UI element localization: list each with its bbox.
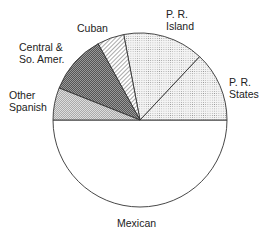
pie-chart — [0, 0, 267, 233]
label-mexican: Mexican — [117, 217, 156, 229]
label-other-spanish: Other Spanish — [9, 89, 47, 113]
label-cuban: Cuban — [77, 22, 108, 34]
slice-mexican — [53, 120, 227, 207]
label-pr-states: P. R. States — [229, 76, 259, 100]
label-pr-island: P. R. Island — [166, 8, 194, 32]
label-central: Central & So. Amer. — [19, 41, 65, 65]
